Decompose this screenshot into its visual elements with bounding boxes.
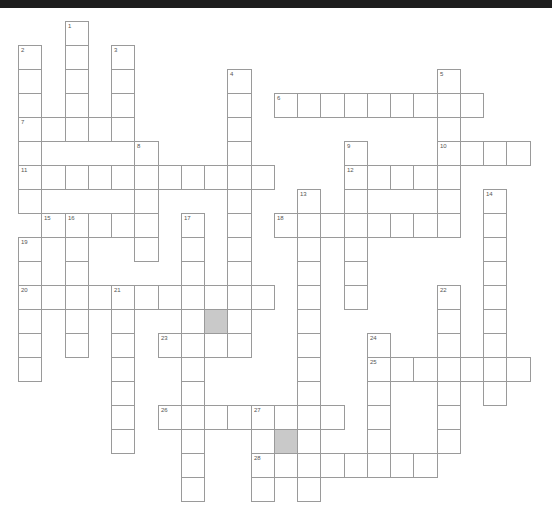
cell-letter-input[interactable] bbox=[438, 310, 460, 333]
cell-letter-input[interactable] bbox=[228, 142, 251, 165]
grid-cell[interactable] bbox=[181, 381, 205, 406]
grid-cell[interactable] bbox=[320, 93, 345, 118]
cell-letter-input[interactable] bbox=[66, 310, 88, 333]
cell-letter-input[interactable] bbox=[112, 214, 134, 237]
grid-cell[interactable] bbox=[65, 45, 89, 70]
grid-cell[interactable] bbox=[18, 189, 42, 214]
cell-letter-input[interactable] bbox=[135, 286, 158, 309]
grid-cell[interactable] bbox=[158, 285, 182, 310]
grid-cell[interactable] bbox=[297, 381, 321, 406]
grid-cell[interactable] bbox=[297, 237, 321, 262]
grid-cell[interactable] bbox=[367, 165, 391, 190]
grid-cell[interactable] bbox=[390, 357, 414, 382]
grid-cell[interactable]: 24 bbox=[367, 333, 391, 358]
grid-cell[interactable]: 12 bbox=[344, 165, 368, 190]
grid-cell[interactable] bbox=[41, 285, 66, 310]
cell-letter-input[interactable] bbox=[66, 70, 88, 93]
grid-cell[interactable] bbox=[390, 453, 414, 478]
grid-cell[interactable] bbox=[483, 237, 507, 262]
grid-cell[interactable] bbox=[437, 357, 461, 382]
grid-cell[interactable] bbox=[18, 309, 42, 334]
cell-letter-input[interactable] bbox=[19, 358, 41, 381]
cell-letter-input[interactable] bbox=[228, 310, 251, 333]
cell-letter-input[interactable] bbox=[19, 94, 41, 117]
grid-cell[interactable] bbox=[204, 405, 228, 430]
cell-letter-input[interactable] bbox=[182, 334, 204, 357]
cell-letter-input[interactable] bbox=[484, 214, 506, 237]
grid-cell[interactable] bbox=[227, 117, 252, 142]
cell-letter-input[interactable] bbox=[438, 406, 460, 429]
cell-letter-input[interactable] bbox=[438, 118, 460, 141]
cell-letter-input[interactable] bbox=[112, 118, 134, 141]
grid-cell[interactable] bbox=[181, 429, 205, 454]
cell-letter-input[interactable] bbox=[461, 142, 483, 165]
grid-cell[interactable] bbox=[297, 309, 321, 334]
grid-cell[interactable] bbox=[297, 477, 321, 502]
cell-letter-input[interactable] bbox=[391, 358, 413, 381]
cell-letter-input[interactable] bbox=[368, 166, 390, 189]
cell-letter-input[interactable] bbox=[182, 358, 204, 381]
grid-cell[interactable] bbox=[344, 213, 368, 238]
grid-cell[interactable] bbox=[181, 357, 205, 382]
grid-cell[interactable] bbox=[297, 429, 321, 454]
grid-cell[interactable] bbox=[227, 405, 252, 430]
cell-letter-input[interactable] bbox=[391, 214, 413, 237]
cell-letter-input[interactable] bbox=[228, 166, 251, 189]
cell-letter-input[interactable] bbox=[182, 310, 204, 333]
grid-cell[interactable]: 26 bbox=[158, 405, 182, 430]
cell-letter-input[interactable] bbox=[66, 238, 88, 261]
grid-cell[interactable]: 8 bbox=[134, 141, 159, 166]
cell-letter-input[interactable] bbox=[484, 382, 506, 405]
grid-cell[interactable] bbox=[181, 477, 205, 502]
grid-cell[interactable] bbox=[18, 261, 42, 286]
cell-letter-input[interactable] bbox=[112, 166, 134, 189]
grid-cell[interactable] bbox=[227, 333, 252, 358]
grid-cell[interactable]: 13 bbox=[297, 189, 321, 214]
grid-cell[interactable] bbox=[437, 213, 461, 238]
cell-letter-input[interactable] bbox=[182, 382, 204, 405]
grid-cell[interactable] bbox=[18, 93, 42, 118]
cell-letter-input[interactable] bbox=[112, 406, 134, 429]
cell-letter-input[interactable] bbox=[507, 358, 530, 381]
grid-cell[interactable] bbox=[65, 309, 89, 334]
grid-cell[interactable] bbox=[134, 213, 159, 238]
grid-cell[interactable]: 7 bbox=[18, 117, 42, 142]
cell-letter-input[interactable] bbox=[159, 286, 181, 309]
grid-cell[interactable]: 14 bbox=[483, 189, 507, 214]
cell-letter-input[interactable] bbox=[484, 238, 506, 261]
cell-letter-input[interactable] bbox=[228, 238, 251, 261]
grid-cell[interactable] bbox=[227, 261, 252, 286]
grid-cell[interactable] bbox=[181, 309, 205, 334]
cell-letter-input[interactable] bbox=[19, 262, 41, 285]
grid-cell[interactable]: 22 bbox=[437, 285, 461, 310]
cell-letter-input[interactable] bbox=[42, 118, 65, 141]
cell-letter-input[interactable] bbox=[228, 262, 251, 285]
cell-letter-input[interactable] bbox=[321, 214, 344, 237]
grid-cell[interactable] bbox=[227, 309, 252, 334]
cell-letter-input[interactable] bbox=[112, 334, 134, 357]
grid-cell[interactable] bbox=[65, 69, 89, 94]
grid-cell[interactable] bbox=[437, 405, 461, 430]
cell-letter-input[interactable] bbox=[89, 166, 111, 189]
grid-cell[interactable]: 20 bbox=[18, 285, 42, 310]
grid-cell[interactable] bbox=[41, 165, 66, 190]
grid-cell[interactable] bbox=[506, 357, 531, 382]
grid-cell[interactable] bbox=[227, 237, 252, 262]
grid-cell[interactable] bbox=[111, 381, 135, 406]
cell-letter-input[interactable] bbox=[205, 166, 227, 189]
grid-cell[interactable] bbox=[483, 309, 507, 334]
grid-cell[interactable] bbox=[460, 141, 484, 166]
cell-letter-input[interactable] bbox=[414, 358, 437, 381]
cell-letter-input[interactable] bbox=[19, 142, 41, 165]
grid-cell[interactable] bbox=[181, 405, 205, 430]
grid-cell[interactable]: 17 bbox=[181, 213, 205, 238]
cell-letter-input[interactable] bbox=[19, 310, 41, 333]
grid-cell[interactable]: 16 bbox=[65, 213, 89, 238]
grid-cell[interactable] bbox=[320, 213, 345, 238]
grid-cell[interactable] bbox=[251, 285, 275, 310]
grid-cell[interactable]: 28 bbox=[251, 453, 275, 478]
grid-cell[interactable] bbox=[367, 405, 391, 430]
cell-letter-input[interactable] bbox=[345, 454, 367, 477]
cell-letter-input[interactable] bbox=[66, 166, 88, 189]
cell-letter-input[interactable] bbox=[228, 406, 251, 429]
